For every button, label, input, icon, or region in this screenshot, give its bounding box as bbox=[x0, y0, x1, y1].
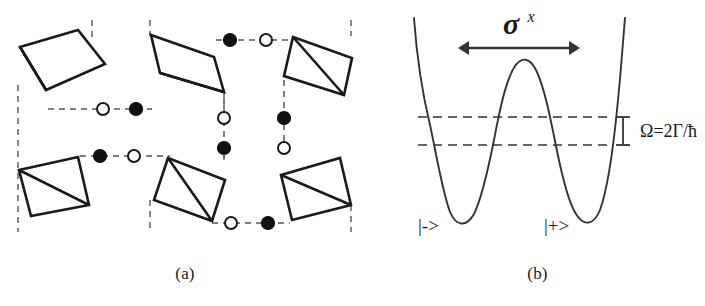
tunneling-arrow-head-right bbox=[569, 41, 580, 55]
sigma-x-label: σ bbox=[503, 7, 520, 40]
site-filled-lower-right bbox=[262, 217, 275, 230]
tetrahedron-top-left-outline bbox=[20, 30, 105, 90]
site-filled-upper-right bbox=[224, 34, 237, 47]
site-filled-center-lower bbox=[218, 142, 231, 155]
site-filled-upper-left bbox=[130, 103, 143, 116]
tetrahedron-top-right bbox=[284, 37, 352, 95]
sigma-x-superscript: x bbox=[526, 8, 534, 25]
tetrahedron-top-middle-outline bbox=[151, 35, 224, 92]
splitting-label: Ω=2Γ/ħ bbox=[640, 121, 697, 141]
tetrahedron-bottom-right bbox=[281, 158, 351, 220]
site-open-center-right-lower bbox=[278, 142, 290, 154]
ket-plus-label: |+> bbox=[544, 215, 569, 236]
tetrahedron-bottom-middle bbox=[154, 158, 225, 221]
site-open-lower-left bbox=[128, 150, 140, 162]
panel-b-svg: σxΩ=2Γ/ħ|->|+> bbox=[370, 0, 705, 260]
site-open-upper-left bbox=[97, 103, 109, 115]
panel-a-caption: (a) bbox=[0, 264, 370, 284]
tetrahedron-top-middle bbox=[151, 35, 224, 92]
site-filled-center-right-upper bbox=[278, 112, 291, 125]
site-open-center-upper bbox=[218, 112, 230, 124]
panel-b-double-well-potential: σxΩ=2Γ/ħ|->|+> (b) bbox=[370, 0, 705, 306]
tunneling-arrow bbox=[458, 41, 580, 55]
tunneling-arrow-head-left bbox=[458, 41, 469, 55]
panel-b-caption: (b) bbox=[370, 264, 705, 284]
panel-a-tetrahedra-lattice: (a) bbox=[0, 0, 370, 306]
tetrahedron-top-left bbox=[20, 30, 105, 90]
splitting-bracket bbox=[616, 117, 630, 145]
tetrahedron-bottom-left bbox=[19, 157, 89, 216]
figure-root: (a) σxΩ=2Γ/ħ|->|+> (b) bbox=[0, 0, 705, 306]
site-filled-lower-left bbox=[94, 150, 107, 163]
site-open-lower-right bbox=[225, 217, 237, 229]
panel-a-svg bbox=[0, 0, 370, 260]
ket-minus-label: |-> bbox=[418, 215, 439, 236]
site-open-upper-right bbox=[260, 34, 272, 46]
